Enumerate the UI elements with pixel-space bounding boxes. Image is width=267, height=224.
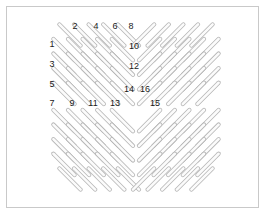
figure-root: 12345678910111213141516 [0, 0, 267, 224]
dash-number-label-6: 6 [112, 22, 117, 31]
dash-number-label-2: 2 [72, 22, 77, 31]
dash-number-label-16: 16 [140, 85, 150, 94]
dash-number-label-15: 15 [150, 99, 160, 108]
dash-number-label-8: 8 [128, 22, 133, 31]
dash-number-label-13: 13 [110, 99, 120, 108]
dash-number-label-7: 7 [49, 99, 54, 108]
dash-number-label-11: 11 [88, 99, 97, 108]
dash-number-label-1: 1 [49, 40, 54, 49]
dash-number-label-12: 12 [129, 62, 139, 71]
dash-number-label-3: 3 [49, 60, 54, 69]
dash-label-layer: 12345678910111213141516 [0, 0, 267, 224]
dash-number-label-5: 5 [49, 80, 54, 89]
dash-number-label-14: 14 [124, 85, 134, 94]
dash-number-label-4: 4 [93, 22, 98, 31]
dash-number-label-9: 9 [69, 99, 74, 108]
dash-number-label-10: 10 [129, 42, 139, 51]
